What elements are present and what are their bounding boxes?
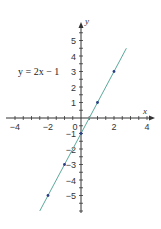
y-axis-label: y: [84, 16, 89, 26]
y-tick-label: −4: [66, 176, 76, 186]
coordinate-plane: −4−202454321−1−2−3−4−5yx: [0, 0, 161, 229]
x-tick-label: −4: [10, 122, 20, 132]
x-tick-label: −2: [43, 122, 53, 132]
y-tick-label: 2: [71, 83, 76, 93]
y-tick-label: 1: [71, 98, 76, 108]
data-point: [113, 70, 116, 73]
data-point: [96, 101, 99, 104]
y-tick-label: −1: [66, 129, 76, 139]
data-point: [80, 132, 83, 135]
y-tick-label: −3: [66, 160, 76, 170]
y-tick-label: 3: [71, 67, 76, 77]
y-tick-label: −5: [66, 191, 76, 201]
y-tick-label: 4: [71, 52, 76, 62]
y-tick-label: 5: [71, 36, 76, 46]
y-axis-arrow-icon: [79, 22, 84, 28]
data-point: [63, 163, 66, 166]
x-axis-label: x: [142, 106, 147, 116]
x-tick-label: 2: [111, 122, 116, 132]
data-point: [47, 194, 50, 197]
x-tick-label: 4: [144, 122, 149, 132]
x-axis-arrow-icon: [149, 116, 155, 121]
